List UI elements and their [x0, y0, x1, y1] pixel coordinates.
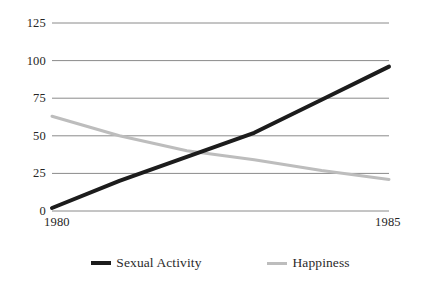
gridlines — [52, 23, 389, 211]
legend-line-swatch-icon-happiness — [267, 262, 287, 265]
y-axis-tick-label-0: 0 — [10, 205, 46, 218]
y-axis-tick-label-75: 75 — [10, 92, 46, 105]
legend-label-happiness: Happiness — [292, 256, 349, 270]
chart-container: 125 100 75 50 25 0 1980 1985 Sexual Acti… — [0, 0, 425, 284]
y-axis-tick-label-125: 125 — [10, 17, 46, 30]
chart-legend: Sexual Activity Happiness — [52, 250, 389, 276]
y-axis-tick-label-100: 100 — [10, 55, 46, 68]
y-axis-tick-label-50: 50 — [10, 130, 46, 143]
series-line-sexual-activity — [52, 67, 389, 208]
y-axis-tick-label-25: 25 — [10, 167, 46, 180]
x-axis-tick-label-1980: 1980 — [44, 216, 70, 229]
legend-line-swatch-icon-sexual-activity — [91, 261, 111, 265]
legend-item-happiness[interactable]: Happiness — [267, 256, 349, 270]
x-axis-tick-label-1985: 1985 — [375, 216, 401, 229]
legend-item-sexual-activity[interactable]: Sexual Activity — [91, 256, 201, 270]
series-line-happiness — [52, 116, 389, 179]
legend-label-sexual-activity: Sexual Activity — [116, 256, 201, 270]
line-chart-plot — [0, 0, 425, 284]
